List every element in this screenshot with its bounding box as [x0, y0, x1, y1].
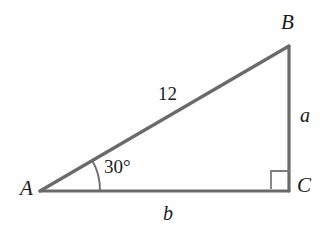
side-label-opposite: a: [300, 105, 310, 125]
side-label-hypotenuse: 12: [158, 84, 177, 103]
geometry-figure: A B C 12 a b 30°: [0, 0, 331, 239]
vertex-label-b: B: [281, 12, 294, 33]
side-label-adjacent: b: [163, 203, 173, 223]
angle-label-at-a: 30°: [104, 157, 131, 176]
vertex-label-a: A: [20, 178, 33, 199]
side-hypotenuse-line: [40, 46, 289, 191]
angle-arc-at-a: [92, 160, 100, 191]
right-angle-marker: [271, 171, 289, 189]
vertex-label-c: C: [297, 175, 311, 196]
